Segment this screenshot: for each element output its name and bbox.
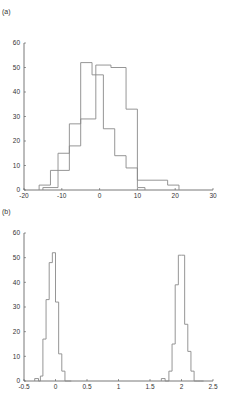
chart-b-x-tick-label: 2.5 <box>208 383 217 390</box>
chart-b-x-tick-label: 1.5 <box>145 383 154 390</box>
histogram-chart-b: 0102030405060-0.500.511.522.5 <box>0 0 228 403</box>
chart-b-y-tick-label: 10 <box>13 353 21 360</box>
chart-b-x-tick-label: 2 <box>180 383 184 390</box>
chart-b-series-1 <box>35 253 72 381</box>
chart-b-y-tick-label: 30 <box>13 303 21 310</box>
chart-b-x-tick-label: 1 <box>117 383 121 390</box>
chart-b-x-tick-label: 0.5 <box>82 383 91 390</box>
chart-b-x-tick-label: 0 <box>54 383 58 390</box>
chart-b-y-tick-label: 20 <box>13 328 21 335</box>
chart-b-x-tick-label: -0.5 <box>18 383 30 390</box>
chart-b-y-tick-label: 60 <box>13 229 21 236</box>
chart-b-y-tick-label: 50 <box>13 254 21 261</box>
chart-b-y-tick-label: 40 <box>13 279 21 286</box>
chart-b-series-2 <box>161 255 203 381</box>
